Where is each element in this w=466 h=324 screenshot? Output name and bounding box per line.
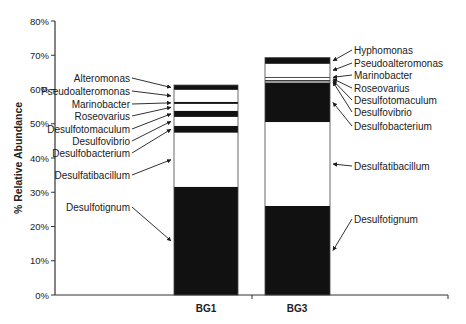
bg1-segment-label: Alteromonas <box>74 73 130 84</box>
bar-bg3 <box>265 58 330 295</box>
segment-alteromonas <box>174 85 238 90</box>
x-category-label: BG1 <box>196 303 217 314</box>
segment-desulfatibacillum <box>174 133 238 187</box>
bg3-segment-label: Pseudoalteromonas <box>354 58 443 69</box>
bg3-segment-label: Roseovarius <box>354 83 410 94</box>
bg3-segment-label: Desulfotomaculum <box>354 95 437 106</box>
segment-desulfotignum <box>265 206 330 295</box>
arrow-icon <box>132 103 171 104</box>
y-axis-label: % Relative Abundance <box>12 102 24 214</box>
segment-desulfovibrio <box>174 117 238 126</box>
segment-marinobacter <box>265 77 330 78</box>
bg1-segment-label: Desulfotomaculum <box>47 124 130 135</box>
segment-pseudoalteromonas <box>265 64 330 77</box>
y-tick-label: 70% <box>30 50 50 61</box>
arrow-icon <box>132 160 171 175</box>
y-tick-label: 20% <box>30 221 50 232</box>
bg1-segment-label: Roseovarius <box>74 111 130 122</box>
arrow-icon <box>132 121 171 141</box>
y-tick-label: 80% <box>30 16 50 27</box>
segment-desulfatibacillum <box>265 122 330 206</box>
arrow-icon <box>132 207 171 241</box>
bars: BG1BG3 <box>174 58 330 314</box>
segment-desulfotomaculum <box>174 111 238 117</box>
segment-roseovarius <box>174 104 238 111</box>
arrow-icon <box>333 75 352 77</box>
bg1-segment-label: Desulfovibrio <box>72 136 130 147</box>
bg1-segment-label: Desulfotignum <box>66 202 130 213</box>
segment-desulfobacterium <box>174 126 238 133</box>
bg1-segment-label: Desulfobacterium <box>52 148 130 159</box>
segment-roseovarius <box>265 78 330 80</box>
x-category-label: BG3 <box>287 303 308 314</box>
arrow-icon <box>333 50 352 61</box>
segment-desulfotomaculum <box>265 80 330 81</box>
y-tick-label: 40% <box>30 153 50 164</box>
bg1-segment-label: Marinobacter <box>72 99 131 110</box>
bg3-segment-label: Desulfotignum <box>354 214 418 225</box>
arrow-icon <box>333 63 352 70</box>
bg3-segment-label: Desulfobacterium <box>354 121 432 132</box>
arrow-icon <box>333 164 352 166</box>
arrow-icon <box>132 114 171 129</box>
segment-pseudoalteromonas <box>174 90 238 102</box>
arrow-icon <box>132 91 171 96</box>
bg1-segment-label: Desulfatibacillum <box>54 170 130 181</box>
y-tick-label: 0% <box>35 290 49 301</box>
arrow-icon <box>333 219 352 250</box>
annotations: AlteromonasPseudoalteromonasMarinobacter… <box>41 45 443 251</box>
segment-desulfotignum <box>174 187 238 295</box>
stacked-bar-chart: 0%10%20%30%40%50%60%70%80% BG1BG3 Altero… <box>0 0 466 324</box>
bar-bg1 <box>174 85 238 295</box>
arrow-icon <box>132 107 171 116</box>
segment-desulfobacterium <box>265 83 330 122</box>
arrow-icon <box>132 78 171 87</box>
segment-hyphomonas <box>265 58 330 64</box>
segment-marinobacter <box>174 102 238 104</box>
arrow-icon <box>132 129 171 153</box>
x-axis <box>55 295 448 299</box>
y-tick-label: 10% <box>30 255 50 266</box>
y-tick-label: 30% <box>30 187 50 198</box>
arrow-icon <box>333 103 352 126</box>
segment-desulfovibrio <box>265 81 330 83</box>
bg3-segment-label: Hyphomonas <box>354 45 413 56</box>
bg3-segment-label: Marinobacter <box>354 70 413 81</box>
bg3-segment-label: Desulfatibacillum <box>354 161 430 172</box>
bg1-segment-label: Pseudoalteromonas <box>41 86 130 97</box>
bg3-segment-label: Desulfovibrio <box>354 107 412 118</box>
